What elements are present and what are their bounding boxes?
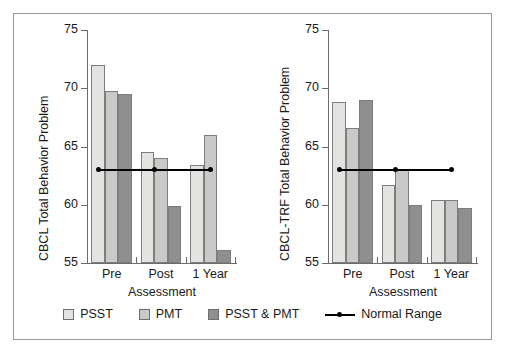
y-axis-title-left: CBCL Total Behavior Problem: [37, 96, 51, 261]
bar-right-pre-psst: [332, 102, 346, 263]
normal-range-marker-right-pre: [337, 167, 342, 172]
y-tick-label-right-60: 60: [279, 198, 319, 211]
bar-left-pre-pmt: [105, 91, 119, 263]
y-tick-left-65: [81, 147, 88, 148]
figure-canvas: CBCL Total Behavior Problem Assessment 5…: [0, 0, 506, 355]
x-tick-left-0: [87, 257, 88, 264]
y-tick-label-right-75: 75: [279, 23, 319, 36]
bar-left-post-pmt: [154, 158, 168, 263]
bar-left-1-year-psst: [190, 165, 204, 263]
x-axis-title-left: Assessment: [87, 285, 237, 299]
y-tick-label-left-70: 70: [38, 81, 78, 94]
x-tick-label-right-1-year: 1 Year: [427, 268, 476, 281]
legend-swatch-icon: [208, 309, 219, 320]
y-tick-right-75: [322, 30, 329, 31]
x-tick-label-right-post: Post: [377, 268, 426, 281]
x-tick-right-1: [377, 257, 378, 264]
y-tick-label-right-55: 55: [279, 256, 319, 269]
legend-item-normal-range[interactable]: Normal Range: [325, 307, 442, 321]
bar-right-1-year-psst-pmt: [458, 208, 472, 263]
bar-right-1-year-pmt: [445, 200, 459, 263]
bar-left-1-year-pmt: [204, 135, 218, 263]
y-tick-label-left-60: 60: [38, 198, 78, 211]
legend-item-psst[interactable]: PSST: [63, 307, 113, 321]
y-tick-right-60: [322, 205, 329, 206]
legend-label: PSST: [80, 307, 113, 321]
bar-left-1-year-psst-pmt: [217, 250, 231, 263]
x-tick-label-left-1-year: 1 Year: [186, 268, 235, 281]
x-tick-label-right-pre: Pre: [328, 268, 377, 281]
legend-item-pmt[interactable]: PMT: [139, 307, 182, 321]
panels-container: CBCL Total Behavior Problem Assessment 5…: [13, 13, 492, 340]
x-tick-right-2: [427, 257, 428, 264]
bar-right-post-psst: [382, 185, 396, 263]
x-tick-label-left-pre: Pre: [87, 268, 136, 281]
legend-item-psst-pmt[interactable]: PSST & PMT: [208, 307, 299, 321]
legend-swatch-icon: [63, 309, 74, 320]
x-tick-left-2: [186, 257, 187, 264]
legend-line-icon: [325, 309, 355, 320]
bar-right-post-psst-pmt: [409, 205, 423, 263]
chart-panel-left: CBCL Total Behavior Problem Assessment 5…: [15, 13, 254, 303]
y-tick-right-70: [322, 88, 329, 89]
legend-label: PSST & PMT: [225, 307, 299, 321]
chart-legend: PSSTPMTPSST & PMTNormal Range: [13, 303, 492, 325]
chart-panel-right: CBCL-TRF Total Behavior Problem Assessme…: [256, 13, 495, 303]
y-tick-left-60: [81, 205, 88, 206]
y-tick-left-70: [81, 88, 88, 89]
x-tick-left-1: [136, 257, 137, 264]
bar-right-1-year-psst: [431, 200, 445, 263]
x-axis-line-right: [328, 263, 478, 264]
y-tick-label-right-65: 65: [279, 140, 319, 153]
legend-label: Normal Range: [361, 307, 442, 321]
y-tick-label-left-55: 55: [38, 256, 78, 269]
x-tick-label-left-post: Post: [136, 268, 185, 281]
x-axis-title-right: Assessment: [328, 285, 478, 299]
bar-left-post-psst-pmt: [168, 206, 182, 263]
x-tick-left-end: [235, 257, 236, 264]
y-tick-label-left-75: 75: [38, 23, 78, 36]
normal-range-marker-left-pre: [96, 167, 101, 172]
bar-left-pre-psst-pmt: [118, 94, 132, 263]
legend-swatch-icon: [139, 309, 150, 320]
bar-left-pre-psst: [91, 65, 105, 263]
x-tick-right-0: [328, 257, 329, 264]
y-tick-label-right-70: 70: [279, 81, 319, 94]
bar-right-pre-psst-pmt: [359, 100, 373, 263]
legend-label: PMT: [156, 307, 182, 321]
x-axis-line-left: [87, 263, 237, 264]
y-tick-label-left-65: 65: [38, 140, 78, 153]
bar-right-pre-pmt: [346, 128, 360, 263]
bar-right-post-pmt: [395, 170, 409, 263]
y-tick-left-75: [81, 30, 88, 31]
x-tick-right-end: [476, 257, 477, 264]
y-tick-right-65: [322, 147, 329, 148]
y-axis-title-right: CBCL-TRF Total Behavior Problem: [278, 67, 292, 261]
